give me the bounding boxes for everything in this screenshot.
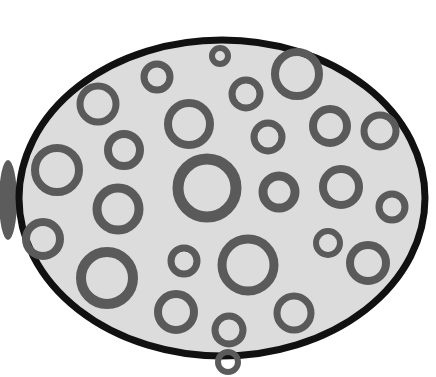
oval-dish [19, 40, 425, 356]
dish-illustration [0, 0, 436, 377]
